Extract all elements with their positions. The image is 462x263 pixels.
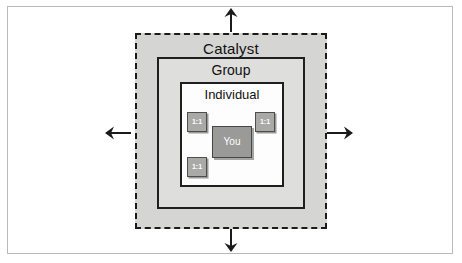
one-on-one-node: 1:1 [187,157,207,177]
diagram-canvas: Catalyst Group Individual 1:1 1:1 1:1 Yo… [0,0,462,263]
you-node: You [212,126,252,158]
arrow-right-icon [327,122,355,144]
arrow-down-icon [219,228,243,254]
catalyst-label: Catalyst [137,40,325,57]
group-label: Group [159,62,303,78]
individual-label: Individual [182,87,282,102]
arrow-left-icon [103,122,131,144]
one-on-one-node: 1:1 [255,112,275,132]
arrow-up-icon [219,6,243,32]
one-on-one-node: 1:1 [187,112,207,132]
